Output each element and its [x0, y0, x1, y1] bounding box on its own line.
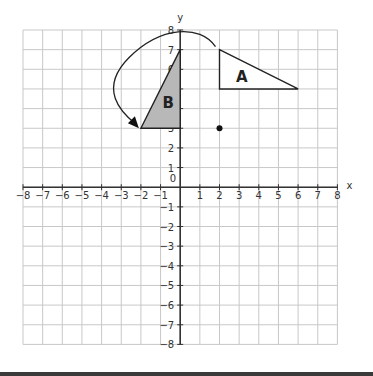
x-tick-label: 2	[216, 190, 222, 201]
x-tick-label: −1	[153, 190, 168, 201]
tick-labels: −8−7−6−5−4−3−2−11234567887654321−1−2−3−4…	[16, 12, 353, 350]
x-tick-label: −5	[75, 190, 90, 201]
x-axis-label: x	[346, 180, 352, 191]
origin-label: 0	[170, 173, 176, 184]
x-tick-label: 4	[256, 190, 262, 201]
y-tick-label: −2	[159, 222, 174, 233]
y-tick-label: −6	[159, 300, 174, 311]
x-tick-label: −6	[55, 190, 70, 201]
y-tick-label: −3	[159, 241, 174, 252]
x-tick-label: −4	[94, 190, 109, 201]
y-tick-label: 1	[168, 163, 174, 174]
bottom-border	[0, 372, 373, 376]
triangle-a-label: A	[236, 68, 248, 86]
rotation-center-point	[217, 125, 223, 131]
x-tick-label: 3	[236, 190, 242, 201]
x-tick-label: 5	[275, 190, 281, 201]
triangle-b-label: B	[162, 94, 173, 112]
x-tick-label: −8	[16, 190, 31, 201]
y-tick-label: −7	[159, 320, 174, 331]
y-tick-label: −1	[159, 202, 174, 213]
y-tick-label: −4	[159, 261, 174, 272]
coordinate-plane: −8−7−6−5−4−3−2−11234567887654321−1−2−3−4…	[0, 0, 373, 376]
y-tick-label: 2	[168, 143, 174, 154]
x-tick-label: 8	[334, 190, 340, 201]
x-tick-label: −3	[114, 190, 129, 201]
x-tick-label: −2	[134, 190, 149, 201]
y-tick-label: 8	[168, 25, 174, 36]
x-tick-label: −7	[35, 190, 50, 201]
y-tick-label: −5	[159, 280, 174, 291]
x-tick-label: 6	[295, 190, 301, 201]
y-axis-label: y	[177, 12, 183, 23]
y-tick-label: −8	[159, 339, 174, 350]
y-tick-label: 7	[168, 45, 174, 56]
x-tick-label: 1	[197, 190, 203, 201]
x-tick-label: 7	[315, 190, 321, 201]
